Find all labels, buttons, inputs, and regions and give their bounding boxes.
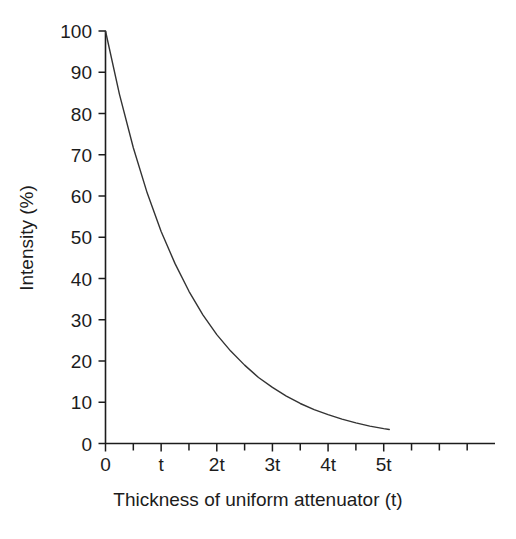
y-tick-label: 60 <box>40 187 92 206</box>
x-tick-label: 4t <box>320 455 336 474</box>
y-tick-label: 80 <box>40 104 92 123</box>
y-axis-ticks <box>99 31 106 444</box>
x-tick-label: t <box>159 455 164 474</box>
x-axis-ticks <box>106 444 468 452</box>
y-axis-title: Intensity (%) <box>16 148 38 328</box>
y-tick-label: 30 <box>40 310 92 329</box>
y-tick-label: 90 <box>40 63 92 82</box>
y-tick-label: 100 <box>40 22 92 41</box>
x-tick-label: 5t <box>376 455 392 474</box>
x-tick-label: 0 <box>100 455 111 474</box>
y-tick-label: 0 <box>40 434 92 453</box>
x-axis-title: Thickness of uniform attenuator (t) <box>0 489 516 511</box>
x-tick-label: 3t <box>264 455 280 474</box>
decay-curve <box>106 31 390 429</box>
intensity-attenuation-chart: 0102030405060708090100 0t2t3t4t5t Intens… <box>0 0 516 539</box>
y-tick-label: 40 <box>40 269 92 288</box>
x-tick-label: 2t <box>209 455 225 474</box>
y-tick-label: 70 <box>40 145 92 164</box>
y-tick-label: 20 <box>40 352 92 371</box>
y-tick-label: 10 <box>40 393 92 412</box>
y-tick-label: 50 <box>40 228 92 247</box>
